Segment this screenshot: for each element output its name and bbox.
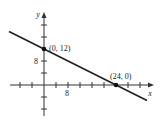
x-axis-arrow-icon: [148, 83, 154, 88]
y-axis-arrow-icon: [42, 12, 47, 18]
y-tick-label: 8: [34, 57, 38, 66]
point-y-intercept: [42, 47, 47, 52]
data-line: [9, 32, 147, 101]
y-axis-label: y: [35, 10, 40, 19]
y-axis: 8 y: [34, 10, 47, 116]
x-axis: 8 x: [10, 82, 154, 98]
x-tick-label: 8: [65, 89, 69, 98]
line-graph: 8 x 8 y (0, 12) (24, 0): [0, 0, 160, 124]
x-axis-label: x: [147, 89, 152, 98]
point-x-intercept: [114, 83, 119, 88]
point-label-x-intercept: (24, 0): [110, 72, 132, 81]
point-label-y-intercept: (0, 12): [49, 44, 71, 53]
